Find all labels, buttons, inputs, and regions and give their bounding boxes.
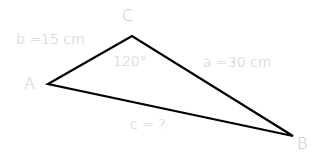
side-label-a: a =30 cm: [203, 55, 271, 69]
side-label-b: b =15 cm: [16, 32, 85, 46]
triangle-abc: [48, 36, 293, 136]
vertex-label-b: B: [297, 136, 307, 152]
vertex-label-c: C: [122, 8, 133, 24]
side-label-c: c = ?: [130, 117, 166, 131]
vertex-label-a: A: [24, 76, 35, 92]
angle-label-c: 120°: [113, 54, 147, 68]
